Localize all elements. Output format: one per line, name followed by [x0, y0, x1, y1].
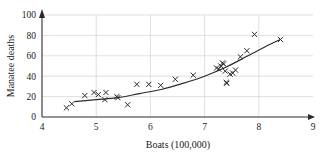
x-tick-label-7: 7: [202, 122, 207, 132]
tick-labels: 020406080100456789: [22, 10, 316, 132]
y-tick-label-40: 40: [27, 72, 37, 82]
y-tick-label-100: 100: [22, 10, 37, 20]
data-point: [173, 77, 178, 82]
data-point: [278, 37, 283, 42]
y-tick-label-80: 80: [27, 31, 37, 41]
y-tick-label-60: 60: [27, 51, 37, 61]
x-tick-label-5: 5: [94, 122, 99, 132]
scatter-plot-svg: 020406080100456789 Boats (100,000) Manat…: [0, 0, 330, 154]
data-point: [191, 73, 196, 78]
data-point: [238, 54, 243, 59]
y-tick-label-20: 20: [27, 92, 37, 102]
x-axis-title: Boats (100,000): [146, 139, 210, 151]
y-tick-label-0: 0: [31, 112, 36, 122]
data-point: [64, 105, 69, 110]
y-axis-arrowhead: [39, 9, 45, 18]
x-tick-label-4: 4: [40, 122, 45, 132]
data-point: [69, 101, 74, 106]
x-tick-label-6: 6: [148, 122, 153, 132]
data-point: [252, 32, 257, 37]
y-axis-title: Manatee deaths: [5, 35, 16, 98]
data-point: [103, 90, 108, 95]
data-point: [158, 83, 163, 88]
data-point: [125, 102, 130, 107]
chart-figure: 020406080100456789 Boats (100,000) Manat…: [0, 0, 330, 154]
x-axis-arrowhead: [308, 114, 315, 120]
data-point: [223, 69, 228, 74]
data-points: [64, 32, 283, 111]
x-tick-label-9: 9: [311, 122, 316, 132]
data-point: [82, 93, 87, 98]
gridlines: [42, 15, 313, 117]
x-tick-label-8: 8: [256, 122, 261, 132]
data-point: [244, 48, 249, 53]
data-point: [233, 67, 238, 72]
axes: [39, 9, 315, 120]
data-point: [134, 82, 139, 87]
